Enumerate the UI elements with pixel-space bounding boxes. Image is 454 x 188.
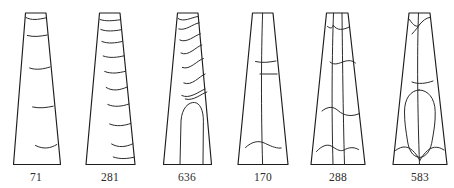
figure-71-band-4 [33,106,54,108]
figure-281-band-10 [113,157,134,159]
figure-71-band-3 [30,67,50,69]
figure-281-band-5 [105,71,126,73]
figure-281-band-9 [112,144,133,147]
figure-281-band-6 [106,87,127,90]
figure-288: 288 [311,13,365,183]
figure-583-base-right [420,147,444,160]
figure-288-left-vertical [332,13,333,164]
figure-281-label: 281 [101,171,119,183]
figure-281-band-3 [102,42,122,44]
figure-583-band-3 [412,81,433,83]
figure-288-band-1 [328,26,334,28]
figure-636-label: 636 [178,171,196,183]
figure-636-band-2 [179,23,199,30]
figure-288-band-5 [317,145,359,151]
figure-636-band-3 [180,34,201,41]
figure-583-center-line [418,13,420,164]
figure-71-band-5 [36,145,57,149]
figure-plate: 71 281 63 [0,0,454,188]
figure-636-band-6 [184,74,205,84]
figure-170-band-3 [246,142,282,148]
figure-281: 281 [86,13,135,183]
figure-288-band-4 [322,107,360,115]
figure-583-outline [393,13,447,165]
figure-plate-canvas: 71 281 63 [0,0,454,188]
figure-636-outline [164,13,212,165]
figure-636-band-1 [178,17,198,21]
figure-583-blob [405,90,436,158]
figure-170-outline [238,13,288,165]
figure-71-band-2 [27,35,47,36]
figure-281-band-7 [108,104,129,106]
figure-281-outline [86,13,135,165]
figure-170-label: 170 [254,171,272,183]
figure-170-band-1 [256,61,277,62]
figure-71-label: 71 [30,171,42,183]
figure-281-band-8 [110,124,131,126]
figure-288-label: 288 [329,171,347,183]
figure-288-band-2 [333,26,349,30]
figure-636: 636 [164,13,212,183]
figure-583-label: 583 [411,171,429,183]
figure-170: 170 [238,13,288,183]
figure-281-band-1 [100,20,120,21]
figure-281-band-4 [103,56,124,58]
figure-71-band-1 [26,18,46,20]
figure-288-outline [311,13,365,165]
figure-71: 71 [14,13,61,183]
figure-636-band-5 [182,59,203,69]
figure-281-band-2 [101,30,121,31]
figure-636-band-7 [185,92,207,99]
figure-636-arch [180,102,203,164]
figure-71-outline [14,13,61,165]
figure-288-right-vertical [342,13,345,164]
figure-636-band-8 [182,89,205,97]
figure-636-band-4 [181,45,202,54]
figure-583-base-left [396,147,420,161]
figure-583: 583 [393,13,447,183]
